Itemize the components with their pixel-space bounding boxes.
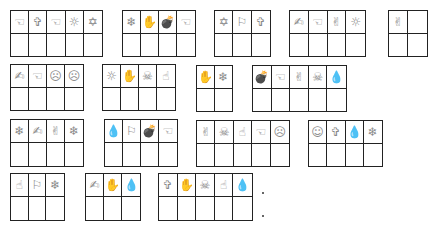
answer-cell[interactable] [84,34,102,57]
answer-cell[interactable] [29,143,47,166]
symbol-cell: ✋ [197,66,215,89]
answer-cell[interactable] [46,197,64,220]
answer-cell[interactable] [253,89,272,112]
answer-cell[interactable] [290,34,309,57]
answer-cell[interactable] [215,197,234,220]
answer-cell[interactable] [65,88,83,111]
answer-cell[interactable] [309,89,328,112]
symbol-cell: ⚐ [29,174,47,197]
answer-cell[interactable] [233,34,251,57]
answer-cell[interactable] [11,34,29,57]
answer-cell[interactable] [252,34,270,57]
symbol-cell: ⚐ [123,120,141,143]
writing-hand-icon: ✍ [89,179,99,191]
answer-cell[interactable] [215,144,233,167]
symbol-cell: ✍ [11,65,29,88]
symbol-grid-box: ☝⚐❄ [10,173,65,221]
answer-cell[interactable] [105,143,123,166]
answer-cell[interactable] [11,88,29,111]
symbol-grid-box: ✍✋💧 [85,173,141,221]
sun-icon: ☼ [106,70,117,82]
symbol-cell: ☝ [215,174,234,197]
snowflake-icon: ❄ [126,16,136,28]
symbol-cell: ☜ [272,66,291,89]
symbol-cell: ✞ [29,11,47,34]
answer-cell[interactable] [104,197,122,220]
answer-cell[interactable] [159,143,177,166]
answer-cell[interactable] [389,34,408,57]
answer-cell[interactable] [66,34,84,57]
symbol-grid-box: ❄✋💣☜ [122,10,196,57]
symbol-cell: ✞ [327,121,345,144]
answer-cell[interactable] [233,197,252,220]
answer-cell[interactable] [215,34,233,57]
symbol-cell: ❄ [364,121,382,144]
answer-cell[interactable] [103,88,121,111]
answer-cell[interactable] [159,34,177,57]
answer-cell[interactable] [309,34,328,57]
symbol-grid-box: ❄✍✌❄ [10,119,84,167]
symbol-cell: ☜ [309,11,328,34]
symbol-cell: ✌ [197,121,215,144]
answer-cell[interactable] [177,34,195,57]
answer-cell[interactable] [123,34,141,57]
pointing-hand-icon: ☜ [51,16,62,28]
answer-cell[interactable] [11,197,29,220]
answer-cell[interactable] [234,144,252,167]
answer-cell[interactable] [178,197,197,220]
symbol-cell: ☝ [157,65,175,88]
smile-face-icon: ☺ [311,126,324,138]
cross-icon: ✞ [33,16,43,28]
answer-cell[interactable] [47,143,65,166]
answer-cell[interactable] [197,144,215,167]
answer-cell[interactable] [47,88,65,111]
symbol-cell: ✡ [84,11,102,34]
symbol-cell: ✋ [121,65,139,88]
symbol-cell: ⚐ [233,11,251,34]
flag-icon: ⚐ [32,179,43,191]
index-finger-icon: ☝ [239,126,246,138]
answer-cell[interactable] [408,34,427,57]
symbol-cell: ☠ [196,174,215,197]
answer-cell[interactable] [29,34,47,57]
answer-cell[interactable] [65,143,83,166]
answer-cell[interactable] [47,34,65,57]
answer-cell[interactable] [139,88,157,111]
symbol-grid-box: ✍☜☹☹ [10,64,84,111]
symbol-cell: ✍ [29,120,47,143]
answer-cell[interactable] [86,197,104,220]
symbol-cell: ☜ [29,65,47,88]
answer-cell[interactable] [11,143,29,166]
answer-cell[interactable] [122,197,140,220]
answer-cell[interactable] [272,89,291,112]
answer-cell[interactable] [346,144,364,167]
answer-cell[interactable] [197,89,215,112]
answer-cell[interactable] [123,143,141,166]
answer-cell[interactable] [29,88,47,111]
answer-cell[interactable] [215,89,233,112]
answer-cell[interactable] [327,89,346,112]
answer-cell[interactable] [252,144,270,167]
answer-cell[interactable] [141,143,159,166]
answer-cell[interactable] [141,34,159,57]
open-hand-icon: ✋ [179,179,194,191]
symbol-grid-box: ✍☜✌☼ [289,10,366,57]
victory-hand-icon: ✌ [201,126,211,138]
symbol-cell: ❄ [65,120,83,143]
answer-cell[interactable] [328,34,347,57]
answer-cell[interactable] [29,197,47,220]
answer-cell[interactable] [327,144,345,167]
answer-cell[interactable] [196,197,215,220]
answer-cell[interactable] [346,34,365,57]
symbol-cell: ☼ [346,11,365,34]
symbol-cell: ✡ [215,11,233,34]
cross-icon: ✞ [163,179,173,191]
symbol-cell: 💧 [327,66,346,89]
answer-cell[interactable] [309,144,327,167]
answer-cell[interactable] [121,88,139,111]
answer-cell[interactable] [159,197,178,220]
answer-cell[interactable] [271,144,289,167]
answer-cell[interactable] [364,144,382,167]
answer-cell[interactable] [290,89,309,112]
answer-cell[interactable] [157,88,175,111]
